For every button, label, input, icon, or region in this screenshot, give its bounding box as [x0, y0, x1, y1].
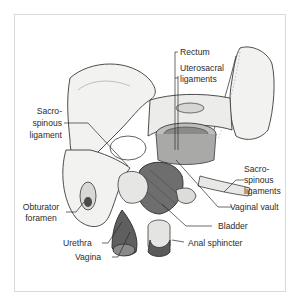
label-urethra: Urethra — [63, 238, 92, 249]
label-bladder: Bladder — [218, 221, 248, 232]
right-iliac-wing — [230, 47, 274, 139]
label-uterosacral-line1: Uterosacral — [180, 63, 224, 74]
label-anal-sphincter: Anal sphincter — [188, 238, 242, 249]
label-sacrospinous-left-line3: ligament — [20, 130, 62, 141]
label-obturator-line2: foramen — [18, 213, 64, 224]
label-sacrospinous-left-line2: spinous — [22, 118, 62, 129]
label-vagina: Vagina — [75, 252, 101, 263]
label-sacrospinous-right-line2: spinous — [244, 175, 274, 186]
label-sacrospinous-right-line3: ligaments — [244, 186, 281, 197]
label-uterosacral-line2: ligaments — [180, 74, 217, 85]
label-vaginal-vault: Vaginal vault — [230, 202, 279, 213]
pelvis-illustration — [0, 0, 296, 307]
label-sacrospinous-left-line1: Sacro- — [26, 106, 62, 117]
label-obturator-line1: Obturator — [18, 202, 64, 213]
label-rectum: Rectum — [180, 47, 210, 58]
label-sacrospinous-right-line1: Sacro- — [244, 164, 269, 175]
